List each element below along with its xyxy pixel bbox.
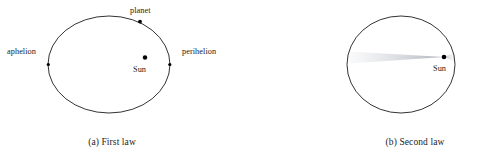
perihelion-marker-dot <box>168 63 171 66</box>
sun-label-second-law: Sun <box>433 64 446 73</box>
sun-label-first-law: Sun <box>133 65 146 74</box>
sun-marker-dot-b <box>442 55 447 60</box>
perihelion-label: perihelion <box>182 47 216 56</box>
equal-area-sector <box>349 52 444 64</box>
caption-first-law: (a) First law <box>0 137 224 147</box>
planet-marker-dot <box>138 20 142 24</box>
kepler-laws-figure: aphelion perihelion planet Sun Sun (a) F… <box>0 0 482 157</box>
figure-canvas <box>0 0 482 157</box>
aphelion-label: aphelion <box>7 47 36 56</box>
caption-second-law: (b) Second law <box>336 137 482 147</box>
orbit-ellipse-a <box>48 16 170 113</box>
planet-label: planet <box>130 6 151 15</box>
sun-marker-dot-a <box>143 55 147 59</box>
first-law-panel <box>47 16 172 113</box>
aphelion-marker-dot <box>47 63 50 66</box>
